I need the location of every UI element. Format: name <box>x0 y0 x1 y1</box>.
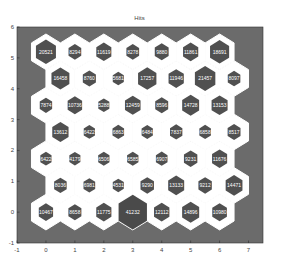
y-tick-label: 3 <box>11 117 15 123</box>
y-tick-label: 5 <box>11 55 15 61</box>
hit-count-label: 8294 <box>69 49 80 55</box>
hit-count-label: 8517 <box>228 129 239 135</box>
hit-count-label: 6863 <box>113 129 124 135</box>
hit-count-label: 13612 <box>53 129 67 135</box>
chart-title: Hits <box>17 15 262 21</box>
y-tick-label: 6 <box>11 24 15 30</box>
y-tick-label: 2 <box>11 147 15 153</box>
hit-count-label: 6422 <box>84 129 95 135</box>
hit-count-label: 8278 <box>127 49 138 55</box>
hit-count-label: 18691 <box>213 49 227 55</box>
hit-count-label: 9290 <box>142 182 153 188</box>
x-tick-label: 0 <box>44 247 48 253</box>
som-hits-figure: Hits 10467865811775412321211214896109808… <box>0 0 283 260</box>
hit-count-label: 8097 <box>228 75 239 81</box>
hit-count-label: 4179 <box>69 156 80 162</box>
hit-count-label: 4531 <box>113 182 124 188</box>
hit-count-label: 6484 <box>142 129 153 135</box>
hit-count-label: 8760 <box>84 75 95 81</box>
y-tick-label: 4 <box>11 86 15 92</box>
x-tick-label: -1 <box>14 247 20 253</box>
hit-count-label: 10467 <box>39 209 53 215</box>
hit-count-label: 11676 <box>213 156 227 162</box>
hit-count-label: 14471 <box>227 182 241 188</box>
x-tick-label: 7 <box>247 247 251 253</box>
hit-count-label: 8658 <box>69 209 80 215</box>
hit-count-label: 6506 <box>98 156 109 162</box>
hit-count-label: 6585 <box>127 156 138 162</box>
hit-count-label: 5288 <box>98 102 109 108</box>
hit-count-label: 5681 <box>113 75 124 81</box>
hit-count-label: 6422 <box>40 156 51 162</box>
hit-count-label: 9880 <box>156 49 167 55</box>
hit-count-label: 14728 <box>184 102 198 108</box>
hit-count-label: 21457 <box>198 75 212 81</box>
y-tick-label: 0 <box>11 209 15 215</box>
hit-count-label: 7837 <box>171 129 182 135</box>
x-tick-label: 6 <box>218 247 222 253</box>
hit-count-label: 9231 <box>185 156 196 162</box>
hits-plot: 1046786581177541232121121489610980803669… <box>0 0 283 260</box>
x-tick-label: 5 <box>189 247 193 253</box>
y-tick-label: 1 <box>11 178 15 184</box>
hit-count-label: 12112 <box>155 209 169 215</box>
hit-count-label: 8596 <box>156 102 167 108</box>
x-tick-label: 4 <box>160 247 164 253</box>
hit-count-label: 9212 <box>200 182 211 188</box>
hit-count-label: 6858 <box>200 129 211 135</box>
hit-count-label: 8036 <box>55 182 66 188</box>
hit-count-label: 13133 <box>169 182 183 188</box>
hit-count-label: 41232 <box>126 209 140 215</box>
hit-count-label: 13153 <box>213 102 227 108</box>
hit-count-label: 6981 <box>84 182 95 188</box>
hit-count-label: 20521 <box>39 49 53 55</box>
x-tick-label: 1 <box>73 247 77 253</box>
hit-count-label: 10736 <box>68 102 82 108</box>
hit-count-label: 11775 <box>97 209 111 215</box>
x-tick-label: 2 <box>102 247 106 253</box>
hit-count-label: 16458 <box>53 75 67 81</box>
hit-count-label: 11861 <box>184 49 198 55</box>
hit-count-label: 6907 <box>156 156 167 162</box>
hit-count-label: 14896 <box>184 209 198 215</box>
hit-count-label: 11946 <box>169 75 183 81</box>
hit-count-label: 17257 <box>140 75 154 81</box>
x-tick-label: 3 <box>131 247 135 253</box>
hit-count-label: 11619 <box>97 49 111 55</box>
hit-count-label: 10980 <box>213 209 227 215</box>
y-tick-label: -1 <box>9 240 15 246</box>
hit-count-label: 7874 <box>40 102 51 108</box>
hit-count-label: 12459 <box>126 102 140 108</box>
